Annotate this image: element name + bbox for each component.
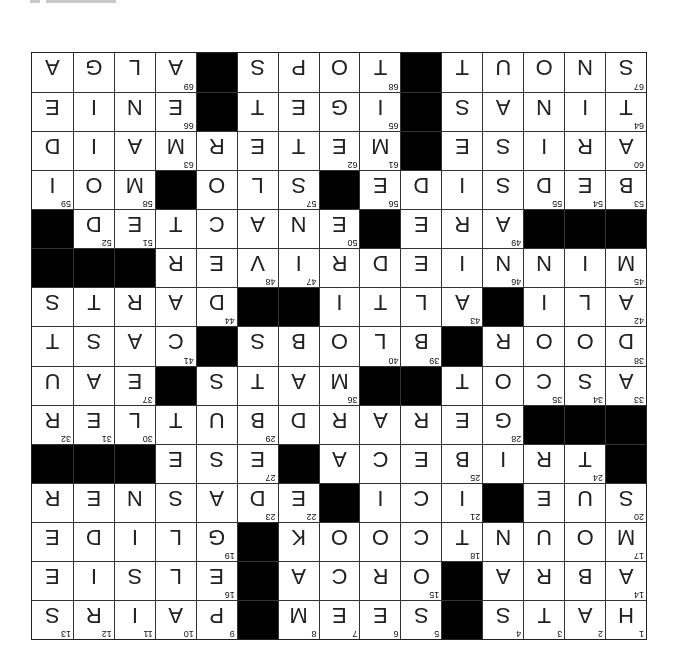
grid-cell[interactable]: U (482, 53, 523, 92)
grid-cell[interactable]: C (359, 444, 400, 483)
grid-cell[interactable]: 50E (319, 209, 360, 248)
grid-cell[interactable]: A (114, 326, 155, 365)
grid-cell[interactable]: 32R (32, 405, 73, 444)
grid-cell[interactable]: S (155, 483, 196, 522)
grid-cell[interactable]: 5S (400, 600, 441, 639)
grid-cell[interactable]: E (196, 248, 237, 287)
grid-cell[interactable]: O (319, 326, 360, 365)
grid-cell[interactable]: R (359, 561, 400, 600)
grid-cell[interactable]: 61M (359, 131, 400, 170)
grid-cell[interactable]: 62E (319, 131, 360, 170)
grid-cell[interactable]: T (237, 366, 278, 405)
grid-cell[interactable]: 63M (155, 131, 196, 170)
grid-cell[interactable]: E (237, 131, 278, 170)
grid-cell[interactable]: A (319, 444, 360, 483)
grid-cell[interactable]: A (237, 209, 278, 248)
grid-cell[interactable]: 29B (237, 405, 278, 444)
grid-cell[interactable]: 66E (155, 92, 196, 131)
grid-cell[interactable]: 27E (237, 444, 278, 483)
grid-cell[interactable]: 54E (564, 170, 605, 209)
grid-cell[interactable]: N (523, 248, 564, 287)
grid-cell[interactable]: 4S (482, 600, 523, 639)
grid-cell[interactable]: E (400, 248, 441, 287)
grid-cell[interactable]: 53B (605, 170, 646, 209)
grid-cell[interactable]: E (32, 92, 73, 131)
grid-cell[interactable]: E (278, 92, 319, 131)
grid-cell[interactable]: 1H (605, 600, 646, 639)
grid-cell[interactable]: 41C (155, 326, 196, 365)
grid-cell[interactable]: 34S (564, 366, 605, 405)
grid-cell[interactable]: 17M (605, 522, 646, 561)
grid-cell[interactable]: R (32, 483, 73, 522)
grid-cell[interactable]: D (359, 248, 400, 287)
grid-cell[interactable]: E (32, 522, 73, 561)
grid-cell[interactable]: 13S (32, 600, 73, 639)
grid-cell[interactable]: A (196, 483, 237, 522)
grid-cell[interactable]: 21I (441, 483, 482, 522)
grid-cell[interactable]: I (564, 248, 605, 287)
grid-cell[interactable]: C (400, 483, 441, 522)
grid-cell[interactable]: S (73, 326, 114, 365)
grid-cell[interactable]: 40L (359, 326, 400, 365)
grid-cell[interactable]: A (155, 287, 196, 326)
grid-cell[interactable]: 25B (441, 444, 482, 483)
grid-cell[interactable]: 31E (73, 405, 114, 444)
grid-cell[interactable]: O (196, 170, 237, 209)
grid-cell[interactable]: I (73, 131, 114, 170)
grid-cell[interactable]: R (482, 326, 523, 365)
grid-cell[interactable]: S (32, 287, 73, 326)
grid-cell[interactable]: T (359, 287, 400, 326)
grid-cell[interactable]: 52D (73, 209, 114, 248)
grid-cell[interactable]: 37E (114, 366, 155, 405)
grid-cell[interactable]: 24T (564, 444, 605, 483)
grid-cell[interactable]: E (400, 209, 441, 248)
grid-cell[interactable]: O (523, 326, 564, 365)
grid-cell[interactable]: 30L (114, 405, 155, 444)
grid-cell[interactable]: O (523, 53, 564, 92)
grid-cell[interactable]: R (319, 248, 360, 287)
grid-cell[interactable]: A (278, 561, 319, 600)
grid-cell[interactable]: 33A (605, 366, 646, 405)
grid-cell[interactable]: 39B (400, 326, 441, 365)
grid-cell[interactable]: R (319, 405, 360, 444)
grid-cell[interactable]: E (155, 444, 196, 483)
grid-cell[interactable]: 43A (441, 287, 482, 326)
grid-cell[interactable]: N (523, 92, 564, 131)
grid-cell[interactable]: R (441, 209, 482, 248)
grid-cell[interactable]: L (155, 522, 196, 561)
grid-cell[interactable]: T (155, 405, 196, 444)
grid-cell[interactable]: I (319, 287, 360, 326)
grid-cell[interactable]: 3T (523, 600, 564, 639)
grid-cell[interactable]: S (482, 131, 523, 170)
grid-cell[interactable]: D (400, 170, 441, 209)
grid-cell[interactable]: S (237, 53, 278, 92)
grid-cell[interactable]: 23D (237, 483, 278, 522)
grid-cell[interactable]: D (278, 405, 319, 444)
grid-cell[interactable]: 28G (482, 405, 523, 444)
grid-cell[interactable]: S (441, 92, 482, 131)
grid-cell[interactable]: G (319, 92, 360, 131)
grid-cell[interactable]: R (400, 405, 441, 444)
grid-cell[interactable]: E (441, 405, 482, 444)
grid-cell[interactable]: I (441, 248, 482, 287)
grid-cell[interactable]: 59I (32, 170, 73, 209)
grid-cell[interactable]: 8M (278, 600, 319, 639)
grid-cell[interactable]: I (564, 92, 605, 131)
grid-cell[interactable]: O (564, 326, 605, 365)
grid-cell[interactable]: 44D (196, 287, 237, 326)
grid-cell[interactable]: C (319, 561, 360, 600)
grid-cell[interactable]: I (114, 522, 155, 561)
grid-cell[interactable]: 48V (237, 248, 278, 287)
grid-cell[interactable]: E (400, 444, 441, 483)
grid-cell[interactable]: L (564, 287, 605, 326)
grid-cell[interactable]: D (73, 522, 114, 561)
grid-cell[interactable]: 20S (605, 483, 646, 522)
grid-cell[interactable]: 67S (605, 53, 646, 92)
grid-cell[interactable]: R (523, 561, 564, 600)
grid-cell[interactable]: 10A (155, 600, 196, 639)
grid-cell[interactable]: R (155, 248, 196, 287)
grid-cell[interactable]: 22E (278, 483, 319, 522)
grid-cell[interactable]: 19G (196, 522, 237, 561)
grid-cell[interactable]: U (564, 483, 605, 522)
grid-cell[interactable]: T (278, 131, 319, 170)
